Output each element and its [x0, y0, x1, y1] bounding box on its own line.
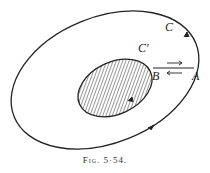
- label-b: B: [152, 70, 159, 82]
- diagram: [0, 0, 210, 173]
- label-c-prime: C′: [138, 42, 149, 54]
- inner-curve-c-prime: [69, 48, 162, 128]
- arrow-left-icon: [167, 71, 182, 75]
- label-a: A: [192, 70, 199, 82]
- arrow-up-icon: [184, 32, 189, 37]
- label-c: C: [165, 21, 173, 33]
- figure-caption: Fig. 5·54.: [0, 155, 210, 165]
- arrow-right-icon: [167, 61, 182, 65]
